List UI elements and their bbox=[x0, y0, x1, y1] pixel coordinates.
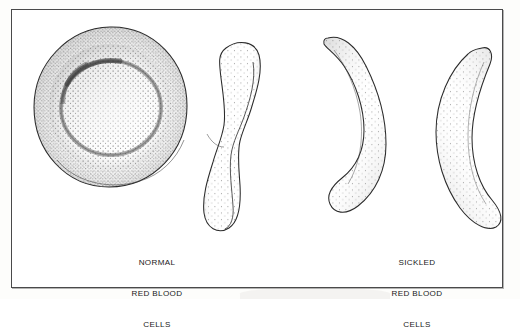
caption-sickled-line-3: CELLS bbox=[342, 320, 492, 330]
figure-frame: NORMAL RED BLOOD CELLS SICKLED RED BLOOD… bbox=[11, 9, 503, 288]
caption-normal-line-3: CELLS bbox=[82, 320, 232, 330]
caption-normal-line-1: NORMAL bbox=[82, 258, 232, 268]
caption-normal-red-blood-cells: NORMAL RED BLOOD CELLS bbox=[82, 238, 232, 331]
caption-normal-line-2: RED BLOOD bbox=[82, 289, 232, 299]
normal-rbc-side-view bbox=[198, 36, 268, 234]
caption-sickled-red-blood-cells: SICKLED RED BLOOD CELLS bbox=[342, 238, 492, 331]
caption-sickled-line-2: RED BLOOD bbox=[342, 289, 492, 299]
normal-rbc-face-view bbox=[30, 23, 192, 191]
sickled-rbc-1 bbox=[320, 30, 392, 222]
sickled-rbc-2 bbox=[430, 42, 504, 234]
caption-sickled-line-1: SICKLED bbox=[342, 258, 492, 268]
